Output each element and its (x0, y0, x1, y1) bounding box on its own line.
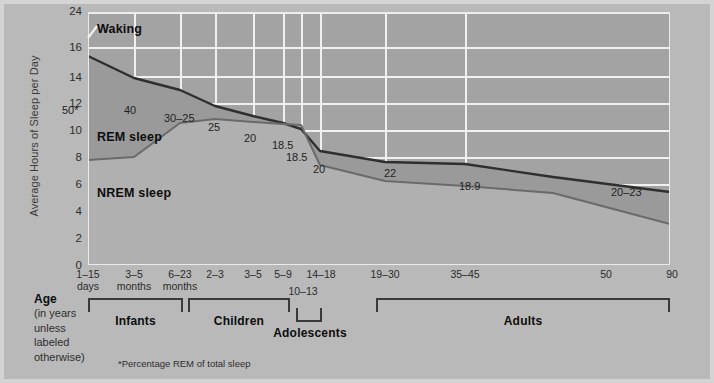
group-label-adolescents: Adolescents (259, 326, 361, 340)
band-label-rem: REM sleep (97, 130, 162, 144)
bracket-children (188, 298, 290, 312)
rem-pct-40: 40 (124, 104, 136, 116)
x-tick-50: 50 (594, 268, 618, 280)
x-tick-10-13: 10–13 (282, 285, 324, 297)
y-tick-8: 8 (52, 151, 82, 163)
rem-pct-20-23: 20–23 (611, 186, 642, 198)
y-tick-2: 2 (52, 232, 82, 244)
x-tick-1-15-days: 1–15 days (64, 268, 112, 292)
x-tick-19-30: 19–30 (364, 268, 406, 280)
rem-pct-30-25: 30–25 (164, 112, 195, 124)
sleep-chart-figure: Average Hours of Sleep per Day 24 16 14 … (0, 0, 714, 383)
rem-pct-50: 50* (62, 104, 79, 116)
group-label-adults: Adults (376, 314, 670, 328)
age-line-3: labeled (34, 335, 104, 350)
x-tick-2-3: 2–3 (196, 268, 234, 280)
y-tick-14: 14 (52, 71, 82, 83)
rem-pct-20-b: 20 (313, 163, 325, 175)
y-tick-24: 24 (52, 5, 82, 17)
age-line-4: otherwise) (34, 350, 104, 365)
age-axis-caption: Age (in years unless labeled otherwise) (34, 292, 104, 364)
band-label-nrem: NREM sleep (97, 186, 171, 200)
sleep-area-bands (88, 12, 670, 265)
rem-pct-18p5-a: 18.5 (272, 139, 293, 151)
y-tick-6: 6 (52, 178, 82, 190)
rem-pct-20-a: 20 (244, 132, 256, 144)
y-axis-title: Average Hours of Sleep per Day (28, 16, 40, 256)
y-tick-16: 16 (52, 41, 82, 53)
band-label-waking: Waking (97, 22, 142, 36)
footnote: *Percentage REM of total sleep (118, 358, 251, 369)
rem-pct-18p5-b: 18.5 (286, 151, 307, 163)
rem-pct-25: 25 (208, 121, 220, 133)
y-tick-4: 4 (52, 205, 82, 217)
plot-area (88, 12, 670, 265)
x-tick-35-45: 35–45 (444, 268, 486, 280)
bracket-adults (376, 298, 670, 312)
bracket-adolescents (296, 308, 322, 322)
rem-pct-22: 22 (384, 167, 396, 179)
x-tick-3-5-months: 3–5 months (108, 268, 160, 292)
age-line-1: (in years (34, 306, 104, 321)
x-tick-90: 90 (660, 268, 684, 280)
age-line-2: unless (34, 321, 104, 336)
rem-pct-18p9: 18.9 (459, 180, 480, 192)
age-title: Age (34, 292, 104, 306)
y-tick-10: 10 (52, 124, 82, 136)
x-tick-5-9: 5–9 (264, 268, 302, 280)
x-tick-14-18: 14–18 (300, 268, 342, 280)
